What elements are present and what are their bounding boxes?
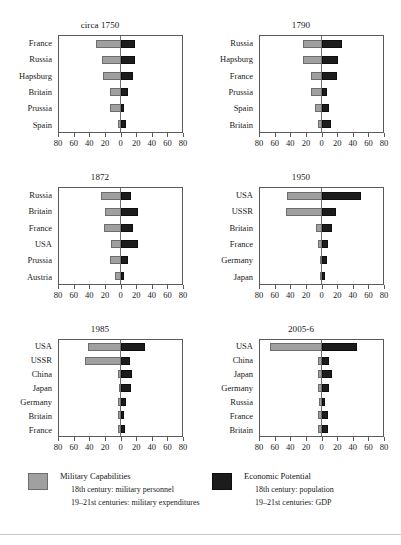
x-axis-labels: 80604020020406080	[234, 138, 401, 150]
bar-economic	[121, 104, 125, 112]
x-axis-tick	[58, 285, 59, 289]
x-axis-tick	[105, 285, 106, 289]
x-axis-tick	[105, 437, 106, 441]
legend-swatch-military-icon	[28, 473, 48, 490]
y-axis-label: Russia	[0, 187, 56, 203]
y-axis-label: USA	[201, 187, 257, 203]
y-axis-label: Russia	[201, 35, 257, 51]
x-axis-tick	[290, 437, 291, 441]
bar-row	[59, 340, 182, 354]
x-axis-tick	[74, 437, 75, 441]
bar-row	[59, 204, 182, 220]
bar-economic	[121, 240, 139, 248]
bar-row	[260, 68, 383, 84]
y-axis-label: Britain	[201, 117, 257, 133]
chart-title: 1790	[201, 20, 401, 30]
plot-area	[58, 35, 183, 133]
y-axis-label: Germany	[0, 395, 56, 409]
legend-item-economic: Economic Potential 18th century: populat…	[212, 470, 397, 509]
legend-economic-line1: 18th century: population	[244, 483, 397, 496]
legend-military-line2: 19–21st centuries: military expenditures	[60, 496, 213, 509]
bar-economic	[322, 56, 338, 64]
bar-military	[105, 208, 121, 216]
x-axis-tick	[74, 133, 75, 137]
bar-row	[260, 204, 383, 220]
chart-panel-3: 1872RussiaBritainFranceUSAPrussiaAustria…	[0, 170, 200, 320]
y-axis-labels: USAUSSRChinaJapanGermanyBritainFrance	[0, 339, 56, 437]
x-axis-tick	[353, 285, 354, 289]
bar-economic	[322, 411, 328, 419]
y-axis-labels: USAUSSRBritainFranceGermanyJapan	[201, 187, 257, 285]
bar-military	[103, 72, 120, 80]
x-axis-tick	[384, 133, 385, 137]
x-axis-tick	[259, 437, 260, 441]
bar-economic	[121, 272, 125, 280]
x-axis-tick	[290, 285, 291, 289]
chart-title: 1985	[0, 324, 200, 334]
y-axis-label: Russia	[0, 51, 56, 67]
bar-military	[110, 104, 120, 112]
bar-row	[260, 395, 383, 409]
bar-economic	[322, 72, 338, 80]
plot-area	[259, 339, 384, 437]
x-axis-ticks	[58, 133, 183, 137]
x-axis-ticks	[58, 437, 183, 441]
x-axis-tick	[337, 133, 338, 137]
bar-row	[260, 422, 383, 436]
x-axis-tick	[58, 133, 59, 137]
x-axis-tick	[368, 437, 369, 441]
bar-economic	[121, 192, 132, 200]
y-axis-label: Germany	[201, 381, 257, 395]
y-axis-label: China	[201, 353, 257, 367]
bar-economic	[322, 272, 326, 280]
legend-military-line1: 18th century: military personnel	[60, 483, 213, 496]
x-axis-ticks	[58, 285, 183, 289]
x-axis-tick-label: 80	[171, 290, 195, 300]
x-axis-tick	[167, 437, 168, 441]
x-axis-tick	[167, 285, 168, 289]
bar-economic	[322, 425, 328, 433]
bar-economic	[121, 398, 126, 406]
bar-military	[311, 88, 322, 96]
y-axis-label: France	[0, 220, 56, 236]
x-axis-tick	[337, 285, 338, 289]
bar-military	[96, 40, 121, 48]
y-axis-label: Britain	[0, 203, 56, 219]
bar-economic	[322, 256, 327, 264]
bar-row	[260, 252, 383, 268]
x-axis-labels: 80604020020406080	[234, 290, 401, 302]
chart-panel-1: circa 1750FranceRussiaHapsburgBritainPru…	[0, 18, 200, 168]
x-axis-tick	[183, 285, 184, 289]
bar-row	[59, 395, 182, 409]
bar-military	[110, 88, 121, 96]
legend-economic-label: Economic Potential	[244, 470, 397, 483]
bar-military	[270, 343, 322, 351]
x-axis-tick-label: 80	[372, 442, 396, 452]
x-axis-tick-label: 80	[171, 138, 195, 148]
y-axis-label: Japan	[201, 367, 257, 381]
x-axis-tick	[121, 133, 122, 137]
x-axis-tick	[136, 133, 137, 137]
x-axis-tick	[322, 133, 323, 137]
y-axis-label: Germany	[201, 252, 257, 268]
plot-area	[58, 339, 183, 437]
bar-economic	[121, 208, 139, 216]
x-axis-tick	[368, 133, 369, 137]
bar-row	[59, 381, 182, 395]
bar-economic	[121, 40, 135, 48]
chart-title: 1872	[0, 172, 200, 182]
figure-legend: Military Capabilities 18th century: mili…	[0, 470, 401, 530]
x-axis-tick	[384, 285, 385, 289]
bar-economic	[322, 240, 328, 248]
bar-military	[88, 343, 120, 351]
y-axis-label: Britain	[201, 423, 257, 437]
x-axis-tick	[353, 133, 354, 137]
bar-economic	[322, 357, 329, 365]
x-axis-tick	[290, 133, 291, 137]
bar-military	[303, 56, 322, 64]
x-axis-tick-label: 80	[372, 290, 396, 300]
y-axis-label: France	[0, 423, 56, 437]
y-axis-label: USSR	[0, 353, 56, 367]
bar-row	[260, 236, 383, 252]
x-axis-tick	[121, 437, 122, 441]
